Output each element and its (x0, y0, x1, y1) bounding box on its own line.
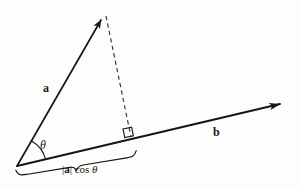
perpendicular-dropline (106, 16, 131, 137)
vector-a-label: a (43, 82, 49, 94)
projection-length-label: |a| cos θ (62, 164, 97, 175)
vector-a-line (17, 20, 101, 166)
right-angle-marker (123, 127, 133, 137)
angle-theta-label: θ (40, 139, 46, 151)
vector-b-label: b (213, 126, 220, 138)
projection-theta: θ (92, 163, 97, 175)
vector-projection-figure: a b θ |a| cos θ (0, 0, 301, 188)
vector-b-line (17, 104, 280, 166)
projection-cos-text: | cos (70, 163, 92, 175)
